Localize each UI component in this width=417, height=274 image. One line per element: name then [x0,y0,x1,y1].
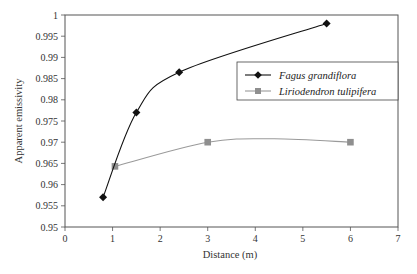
x-tick-label: 1 [110,233,115,244]
series-layer [99,19,354,201]
y-tick-label: 0.99 [41,52,59,63]
x-tick-label: 6 [348,233,353,244]
y-axis: 0.950.9550.960.9650.970.9750.980.9850.99… [36,10,66,233]
x-tick-label: 7 [396,233,401,244]
y-tick-label: 0.975 [36,116,59,127]
plot-frame [65,15,398,227]
square-marker-icon [255,88,261,94]
data-point-diamond [99,193,107,201]
y-tick-label: 0.98 [41,94,59,105]
y-tick-label: 1 [53,10,58,21]
y-tick-label: 0.955 [36,200,59,211]
x-tick-label: 5 [300,233,305,244]
x-axis-title: Distance (m) [203,249,258,261]
chart: 0.950.9550.960.9650.970.9750.980.9850.99… [0,0,417,274]
legend-label: Liriodendron tulipifera [278,86,376,97]
y-tick-label: 0.97 [41,137,59,148]
x-tick-label: 4 [253,233,258,244]
data-point-square [204,139,211,146]
x-axis: 01234567 [63,227,401,244]
x-tick-label: 3 [205,233,210,244]
y-tick-label: 0.985 [36,73,59,84]
y-tick-label: 0.96 [41,179,59,190]
series-fagus-grandiflora [99,19,331,201]
y-axis-title: Apparent emissivity [13,78,24,164]
data-point-diamond [132,109,140,117]
x-tick-label: 2 [158,233,163,244]
y-tick-label: 0.95 [41,222,59,233]
data-point-diamond [175,68,183,76]
y-tick-label: 0.995 [36,31,59,42]
data-point-diamond [323,19,331,27]
legend: Fagus grandiflora Liriodendron tulipifer… [237,62,398,100]
legend-label: Fagus grandiflora [278,70,356,81]
data-point-square [347,139,354,146]
y-tick-label: 0.965 [36,158,59,169]
series-liriodendron-tulipifera [112,139,354,170]
x-tick-label: 0 [63,233,68,244]
